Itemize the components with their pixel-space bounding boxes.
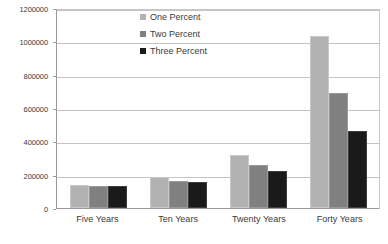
- legend-label: Three Percent: [150, 46, 207, 56]
- bar: [70, 185, 89, 208]
- bar: [249, 165, 268, 208]
- bar-groups: [58, 10, 379, 208]
- bar: [268, 171, 287, 208]
- y-axis-tick-label: 800000: [0, 71, 48, 80]
- bar: [348, 131, 367, 208]
- y-axis-tick-mark: [53, 76, 56, 77]
- x-axis-category-label: Twenty Years: [219, 214, 300, 224]
- y-axis-tick-mark: [53, 109, 56, 110]
- legend-item[interactable]: Three Percent: [140, 45, 207, 57]
- chart-legend: One PercentTwo PercentThree Percent: [140, 11, 207, 57]
- bar: [230, 155, 249, 208]
- bar: [150, 177, 169, 208]
- bar-group: [299, 10, 379, 208]
- bar: [169, 181, 188, 209]
- x-axis-category-label: Five Years: [57, 214, 138, 224]
- plot-area: [56, 9, 380, 209]
- legend-label: One Percent: [150, 12, 201, 22]
- axis-baseline: [57, 208, 379, 209]
- bar: [89, 186, 108, 209]
- y-axis-tick-mark: [53, 142, 56, 143]
- bar: [188, 182, 207, 208]
- y-axis-tick-label: 0: [0, 205, 48, 214]
- legend-item[interactable]: One Percent: [140, 11, 207, 23]
- y-axis-tick-label: 600000: [0, 105, 48, 114]
- x-axis-category-label: Ten Years: [138, 214, 219, 224]
- y-axis-tick-mark: [53, 9, 56, 10]
- legend-swatch-icon: [140, 31, 146, 37]
- bar-group: [58, 10, 138, 208]
- x-axis-labels: Five YearsTen YearsTwenty YearsForty Yea…: [57, 214, 380, 224]
- legend-label: Two Percent: [150, 29, 200, 39]
- legend-swatch-icon: [140, 48, 146, 54]
- y-axis-tick-label: 1000000: [0, 38, 48, 47]
- x-axis-category-label: Forty Years: [299, 214, 380, 224]
- bar-chart: 020000040000060000080000010000001200000 …: [0, 0, 388, 244]
- y-axis-tick-mark: [53, 42, 56, 43]
- bar-group: [219, 10, 299, 208]
- y-axis-tick-label: 400000: [0, 138, 48, 147]
- y-axis-tick-label: 200000: [0, 171, 48, 180]
- legend-item[interactable]: Two Percent: [140, 28, 207, 40]
- bar: [108, 186, 127, 208]
- bar: [310, 36, 329, 208]
- y-axis-tick-mark: [53, 209, 56, 210]
- y-axis-tick-label: 1200000: [0, 5, 48, 14]
- bar: [329, 93, 348, 208]
- legend-swatch-icon: [140, 14, 146, 20]
- y-axis-tick-mark: [53, 176, 56, 177]
